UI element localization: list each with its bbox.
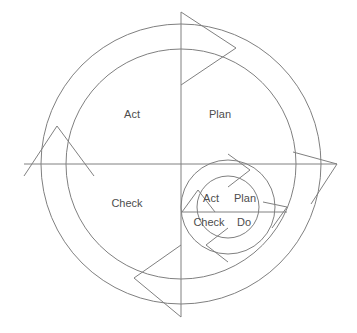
outer-arrow-top-right-icon xyxy=(181,12,236,85)
outer-label-act: Act xyxy=(124,108,140,120)
inner-label-check: Check xyxy=(193,216,225,228)
outer-arc-band-act-inner xyxy=(66,49,181,164)
inner-arrow-bottom-left-icon xyxy=(206,228,228,262)
pdca-diagram-canvas: Plan Act Check xyxy=(0,0,357,333)
outer-arrow-right-down-icon xyxy=(293,152,337,204)
inner-label-plan: Plan xyxy=(234,192,256,204)
inner-arrow-right-down-icon xyxy=(263,202,287,228)
pdca-diagram: Plan Act Check xyxy=(0,0,357,333)
outer-arrow-bottom-left-icon xyxy=(134,245,181,317)
inner-pdca-cycle: Plan Act Check Do xyxy=(181,154,287,262)
outer-label-plan: Plan xyxy=(209,108,231,120)
outer-arc-band-do-outer xyxy=(181,164,321,304)
outer-arrow-left-up-icon xyxy=(24,126,94,176)
axes-group xyxy=(24,12,337,317)
outer-label-check: Check xyxy=(111,197,143,209)
inner-label-act: Act xyxy=(203,192,219,204)
inner-label-do: Do xyxy=(237,216,251,228)
